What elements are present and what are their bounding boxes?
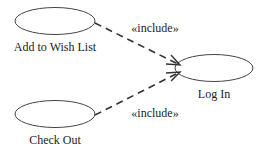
open-arrowhead-icon	[166, 72, 180, 81]
use-case-label-log-in: Log In	[198, 88, 230, 100]
include-stereotype-label-bottom: «include»	[131, 107, 178, 119]
use-case-label-check-out: Check Out	[29, 134, 81, 146]
open-arrowhead-icon	[166, 55, 180, 65]
use-case-log-in-ellipse[interactable]	[175, 55, 253, 82]
use-case-label-add-to-wish-list: Add to Wish List	[14, 41, 96, 53]
include-stereotype-label-top: «include»	[131, 22, 178, 34]
use-case-add-to-wish-list-ellipse[interactable]	[15, 8, 95, 35]
use-case-check-out-ellipse[interactable]	[15, 101, 95, 128]
